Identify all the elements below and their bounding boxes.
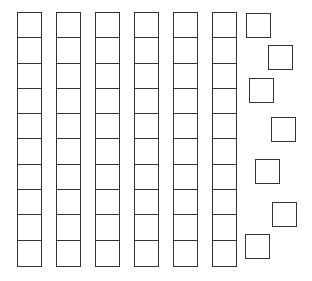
rod-cell [57,114,80,139]
tens-rod [212,12,237,267]
rod-cell [135,241,158,266]
rod-cell [18,190,41,215]
rod-cell [18,114,41,139]
tens-rod [56,12,81,267]
rod-cell [213,165,236,190]
rod-cell [135,215,158,240]
rod-cell [57,89,80,114]
rod-cell [174,215,197,240]
rod-cell [213,139,236,164]
rod-cell [174,13,197,38]
tens-rod [173,12,198,267]
rod-cell [57,165,80,190]
rod-cell [213,64,236,89]
tens-rod [95,12,120,267]
rod-cell [57,241,80,266]
rod-cell [96,13,119,38]
rod-cell [96,114,119,139]
rod-cell [213,38,236,63]
rod-cell [174,64,197,89]
tens-rod [17,12,42,267]
rod-cell [96,139,119,164]
rod-cell [96,165,119,190]
rod-cell [135,139,158,164]
rod-cell [18,139,41,164]
rod-cell [213,190,236,215]
rod-cell [96,89,119,114]
ones-unit [246,13,271,38]
rod-cell [57,13,80,38]
rod-cell [213,89,236,114]
rod-cell [18,89,41,114]
rod-cell [213,13,236,38]
rod-cell [174,241,197,266]
rod-cell [18,38,41,63]
ones-unit [268,45,293,70]
rod-cell [57,64,80,89]
ones-unit [271,117,296,142]
rod-cell [213,114,236,139]
rod-cell [135,64,158,89]
rod-cell [174,190,197,215]
rod-cell [135,114,158,139]
rod-cell [174,165,197,190]
rod-cell [174,114,197,139]
rod-cell [174,139,197,164]
rod-cell [18,165,41,190]
rod-cell [96,190,119,215]
rod-cell [18,64,41,89]
rod-cell [135,13,158,38]
rod-cell [96,215,119,240]
ones-unit [249,78,274,103]
ones-unit [255,159,280,184]
ones-unit [272,202,297,227]
ones-unit [245,234,270,259]
rod-cell [135,38,158,63]
rod-cell [18,215,41,240]
rod-cell [18,241,41,266]
rod-cell [174,38,197,63]
rod-cell [213,241,236,266]
rod-cell [135,89,158,114]
tens-rod [134,12,159,267]
rod-cell [135,190,158,215]
rod-cell [96,38,119,63]
rod-cell [57,190,80,215]
rod-cell [96,64,119,89]
rod-cell [57,38,80,63]
rod-cell [174,89,197,114]
rod-cell [57,139,80,164]
rod-cell [18,13,41,38]
rod-cell [213,215,236,240]
rod-cell [96,241,119,266]
rod-cell [135,165,158,190]
rod-cell [57,215,80,240]
